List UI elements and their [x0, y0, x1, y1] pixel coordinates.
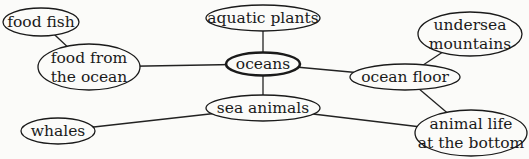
node-label: sea animals: [217, 99, 309, 117]
node-label: whales: [31, 122, 86, 140]
node-oceans: oceans: [226, 53, 300, 76]
node-ocean-floor: ocean floor: [350, 64, 460, 90]
node-sea-animals: sea animals: [206, 95, 320, 121]
node-label: ocean floor: [361, 68, 449, 86]
node-label: the ocean: [51, 68, 128, 86]
concept-map: food fishfood fromthe oceanaquatic plant…: [0, 0, 529, 159]
nodes: food fishfood fromthe oceanaquatic plant…: [3, 5, 527, 156]
node-label: food from: [51, 49, 128, 67]
node-aquatic-plants: aquatic plants: [206, 5, 320, 31]
node-label: food fish: [7, 13, 75, 31]
node-undersea-mountains: underseamountains: [418, 12, 522, 56]
node-whales: whales: [21, 118, 95, 144]
node-animal-life-bottom: animal lifeat the bottom: [415, 110, 527, 156]
node-label: animal life: [430, 115, 513, 133]
node-label: at the bottom: [418, 134, 525, 152]
node-label: mountains: [429, 35, 511, 53]
node-label: aquatic plants: [207, 9, 319, 27]
node-food-fish: food fish: [3, 8, 79, 36]
node-label: undersea: [434, 16, 507, 34]
node-food-from-ocean: food fromthe ocean: [38, 44, 140, 90]
node-label: oceans: [236, 55, 290, 73]
